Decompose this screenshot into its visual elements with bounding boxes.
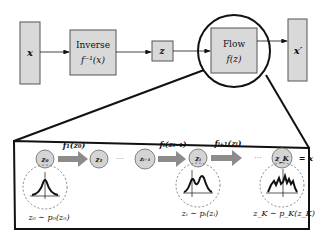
dist-label-i: zᵢ ∼ pᵢ(zᵢ) <box>182 210 218 218</box>
zoom-line-right <box>266 75 309 148</box>
node-zi-label: zᵢ <box>195 155 201 162</box>
node-zK-label: z_K <box>275 155 289 162</box>
dist-label-0: z₀ ∼ p₀(z₀) <box>28 214 69 222</box>
z-box-label: z <box>159 47 164 56</box>
node-zi-1-label: zᵢ₋₁ <box>140 156 151 162</box>
node-z0-label: z₀ <box>41 156 48 163</box>
final-equals-x: = x <box>299 154 313 162</box>
x-box-label: x <box>27 48 33 58</box>
flow-box-title: Flow <box>223 40 245 49</box>
node-z1-label: z₁ <box>95 156 102 163</box>
x-prime-box-label: x′ <box>294 46 303 56</box>
ellipsis-2: ··· <box>254 154 262 162</box>
zoom-line-left <box>14 70 204 141</box>
transform-label-i: fᵢ(zᵢ₋₁) <box>159 140 186 148</box>
inverse-box-formula: f⁻¹(x) <box>81 56 105 65</box>
transform-label-i-plus-1: fᵢ₊₁(zᵢ) <box>214 139 241 147</box>
inverse-box <box>70 30 116 75</box>
ellipsis-1: ··· <box>116 155 124 163</box>
inverse-box-title: Inverse <box>76 41 110 50</box>
flow-box <box>211 28 257 73</box>
flow-box-formula: f(z) <box>226 55 241 64</box>
transform-label-1: f₁(z₀) <box>63 141 86 149</box>
dist-label-K: z_K ∼ p_K(z_K) <box>253 210 315 218</box>
diagram-canvas <box>0 0 330 241</box>
